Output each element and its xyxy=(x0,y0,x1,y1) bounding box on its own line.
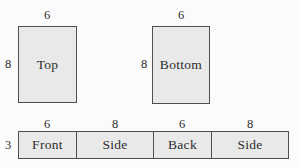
strip-cell-back: Back xyxy=(153,132,211,158)
strip-cell-side-1: Side xyxy=(76,132,153,158)
top-face-width-dim: 6 xyxy=(44,9,50,22)
side1-cell-width-dim: 8 xyxy=(112,118,118,131)
bottom-face-width-dim: 6 xyxy=(178,9,184,22)
front-cell-width-dim: 6 xyxy=(44,118,50,131)
strip-cell-side-2: Side xyxy=(211,132,288,158)
bottom-face-height-dim: 8 xyxy=(141,58,147,71)
side1-cell-label: Side xyxy=(102,137,127,153)
side2-cell-width-dim: 8 xyxy=(247,118,253,131)
back-cell-width-dim: 6 xyxy=(179,118,185,131)
bottom-face: Bottom xyxy=(152,26,210,104)
lateral-faces-strip: Front Side Back Side xyxy=(18,131,289,159)
back-cell-label: Back xyxy=(168,137,197,153)
strip-cell-front: Front xyxy=(19,132,76,158)
top-face-label: Top xyxy=(37,57,59,73)
bottom-face-label: Bottom xyxy=(160,57,202,73)
strip-height-dim: 3 xyxy=(5,139,11,152)
top-face-height-dim: 8 xyxy=(5,58,11,71)
top-face: Top xyxy=(18,26,77,103)
front-cell-label: Front xyxy=(32,137,63,153)
box-net-diagram: 6 8 Top 6 8 Bottom 6 8 6 8 3 Front Side … xyxy=(0,0,300,168)
side2-cell-label: Side xyxy=(237,137,262,153)
